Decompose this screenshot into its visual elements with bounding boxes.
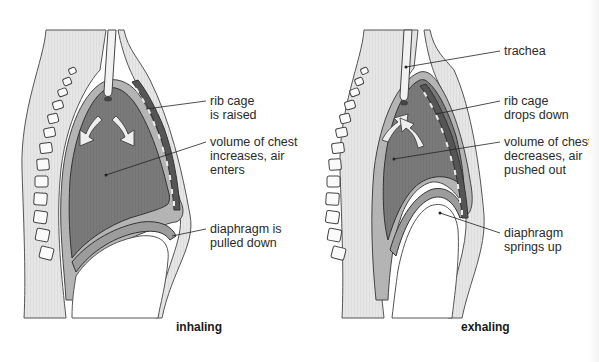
trachea-opening	[104, 97, 112, 102]
caption-exhaling: exhaling	[461, 320, 510, 334]
breathing-diagram: rib cage is raised volume of chest incre…	[0, 0, 599, 362]
right-edge-shade	[589, 0, 599, 362]
trachea-opening	[400, 101, 408, 106]
label-volume-decreases: volume of chest decreases, air pushed ou…	[504, 135, 592, 177]
label-diaphragm-pulled-down: diaphragm is pulled down	[210, 222, 282, 250]
label-diaphragm-springs-up: diaphragm springs up	[504, 226, 563, 254]
label-rib-cage-raised: rib cage is raised	[210, 94, 257, 122]
exhaling-illustration	[325, 30, 500, 318]
label-volume-increases: volume of chest increases, air enters	[210, 135, 298, 177]
label-rib-cage-drops: rib cage drops down	[504, 94, 569, 122]
inhaling-illustration	[22, 30, 206, 318]
caption-inhaling: inhaling	[176, 320, 222, 334]
label-trachea: trachea	[504, 44, 546, 58]
